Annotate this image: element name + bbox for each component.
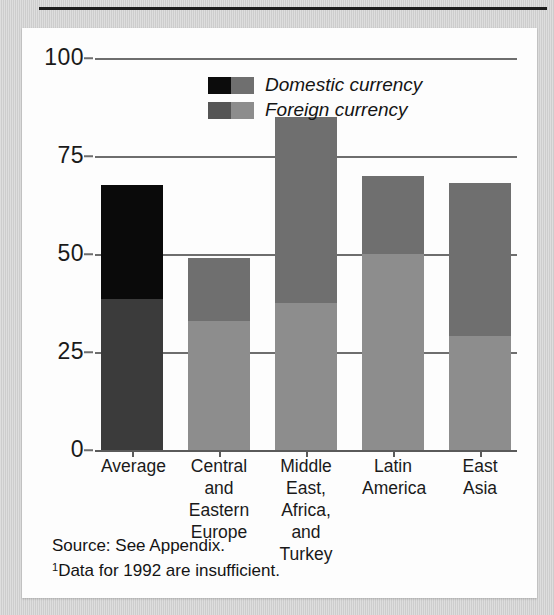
- bar-segment-foreign: [188, 321, 250, 450]
- legend-swatch-domestic-icon: [208, 77, 254, 94]
- y-axis-tick-mark-75: [84, 155, 93, 157]
- y-axis-tick-label-25: 25: [57, 338, 84, 365]
- bar-segment-foreign: [449, 336, 511, 450]
- y-axis-tick-label-75: 75: [57, 142, 84, 169]
- bar-segment-domestic: [275, 117, 337, 303]
- x-axis-label-2: MiddleEast,Africa,andTurkey: [275, 456, 337, 565]
- legend-item-domestic-currency: Domestic currency: [208, 74, 422, 96]
- legend-label-domestic: Domestic currency: [265, 74, 422, 96]
- legend: Domestic currency Foreign currency: [208, 74, 422, 124]
- bar-average: [101, 58, 163, 450]
- legend-label-foreign: Foreign currency: [265, 99, 408, 121]
- x-axis-label-4: EastAsia: [449, 456, 511, 565]
- bar-segment-domestic: [449, 183, 511, 336]
- legend-item-foreign-currency: Foreign currency: [208, 99, 422, 121]
- bar-east-asia: [449, 58, 511, 450]
- figure-notes: Source: See Appendix. 1Data for 1992 are…: [52, 534, 280, 583]
- y-axis-tick-mark-50: [84, 253, 93, 255]
- source-note: Source: See Appendix.: [52, 534, 280, 559]
- bar-segment-foreign: [101, 299, 163, 450]
- y-axis-tick-label-50: 50: [57, 240, 84, 267]
- bar-segment-domestic: [362, 176, 424, 254]
- page-background: 1007550250 AverageCentralandEasternEurop…: [0, 0, 554, 615]
- legend-swatch-foreign-icon: [208, 102, 254, 119]
- y-axis-tick-label-0: 0: [71, 436, 84, 463]
- bar-segment-domestic: [188, 258, 250, 321]
- y-axis-tick-label-100: 100: [44, 44, 84, 71]
- top-rule: [39, 7, 547, 10]
- footnote-text: Data for 1992 are insufficient.: [58, 561, 280, 580]
- bar-segment-foreign: [362, 254, 424, 450]
- y-axis-tick-mark-100: [84, 57, 93, 59]
- footnote-line: 1Data for 1992 are insufficient.: [52, 559, 280, 584]
- bar-segment-domestic: [101, 185, 163, 299]
- bar-segment-foreign: [275, 303, 337, 450]
- figure-panel: 1007550250 AverageCentralandEasternEurop…: [22, 28, 537, 598]
- y-axis-tick-mark-0: [84, 449, 93, 451]
- x-axis-label-3: LatinAmerica: [362, 456, 424, 565]
- y-axis-tick-mark-25: [84, 351, 93, 353]
